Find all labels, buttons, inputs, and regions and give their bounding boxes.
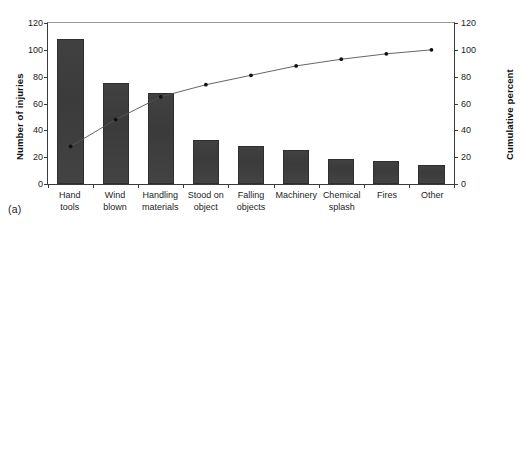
y2-tick-mark	[454, 104, 458, 105]
y2-tick-label: 40	[461, 126, 471, 135]
cumulative-line-path	[71, 50, 432, 147]
y-tick-mark	[44, 130, 48, 131]
cumulative-line-marker	[249, 73, 253, 77]
y-tick-label: 60	[33, 99, 43, 108]
y2-tick-label: 20	[461, 153, 471, 162]
x-axis-label: Chemical splash	[319, 190, 364, 213]
y2-tick-label: 120	[461, 19, 476, 28]
plot-area-a: 020406080100120 020406080100120	[47, 22, 455, 185]
x-tick-mark	[138, 184, 139, 188]
y-tick-mark	[44, 50, 48, 51]
y2-tick-mark	[454, 50, 458, 51]
x-axis-label: Machinery	[274, 190, 319, 213]
y2-tick-mark	[454, 77, 458, 78]
x-axis-label: Other	[410, 190, 455, 213]
x-axis-label: Handling materials	[138, 190, 183, 213]
y2-tick-label: 0	[461, 180, 466, 189]
y2-tick-label: 100	[461, 45, 476, 54]
y2-tick-label: 80	[461, 72, 471, 81]
x-tick-mark	[319, 184, 320, 188]
cumulative-line-marker	[430, 48, 434, 52]
y-tick-mark	[44, 23, 48, 24]
y2-tick-mark	[454, 23, 458, 24]
pareto-chart-panel-a: (a) Number of injuries Cumulative percen…	[0, 0, 522, 233]
x-tick-mark	[183, 184, 184, 188]
cumulative-line-marker	[384, 52, 388, 56]
cumulative-line-marker	[294, 64, 298, 68]
x-tick-mark	[48, 184, 49, 188]
cumulative-line-marker	[204, 83, 208, 87]
y-tick-label: 0	[38, 180, 43, 189]
x-axis-labels-a: Hand toolsWind blownHandling materialsSt…	[47, 190, 455, 213]
y-tick-label: 120	[28, 19, 43, 28]
y-tick-label: 100	[28, 45, 43, 54]
figure-canvas: (a) Number of injuries Cumulative percen…	[0, 0, 522, 467]
cumulative-percent-line-a	[48, 23, 454, 184]
y-axis-title-a: Number of injuries	[14, 73, 25, 160]
y2-tick-mark	[454, 157, 458, 158]
x-axis-label: Hand tools	[47, 190, 92, 213]
cumulative-line-marker	[114, 118, 118, 122]
x-tick-mark	[93, 184, 94, 188]
panel-tag-a: (a)	[8, 203, 21, 215]
y-tick-label: 80	[33, 72, 43, 81]
x-axis-label: Wind blown	[92, 190, 137, 213]
cumulative-line-marker	[159, 95, 163, 99]
y-tick-label: 20	[33, 153, 43, 162]
x-tick-mark	[454, 184, 455, 188]
x-axis-label: Falling objects	[228, 190, 273, 213]
cumulative-line-marker	[69, 145, 73, 149]
x-tick-mark	[274, 184, 275, 188]
x-tick-mark	[364, 184, 365, 188]
cumulative-line-marker	[339, 57, 343, 61]
y-tick-mark	[44, 77, 48, 78]
x-axis-label: Stood on object	[183, 190, 228, 213]
y-tick-label: 40	[33, 126, 43, 135]
x-tick-mark	[409, 184, 410, 188]
y2-axis-title-a: Cumulative percent	[504, 69, 515, 160]
x-axis-label: Fires	[364, 190, 409, 213]
y-tick-mark	[44, 157, 48, 158]
y-tick-mark	[44, 104, 48, 105]
y2-tick-mark	[454, 130, 458, 131]
pareto-chart-panel-b: (b) Number of injuries Cumulative percen…	[0, 234, 522, 467]
x-tick-mark	[228, 184, 229, 188]
y2-tick-label: 60	[461, 99, 471, 108]
